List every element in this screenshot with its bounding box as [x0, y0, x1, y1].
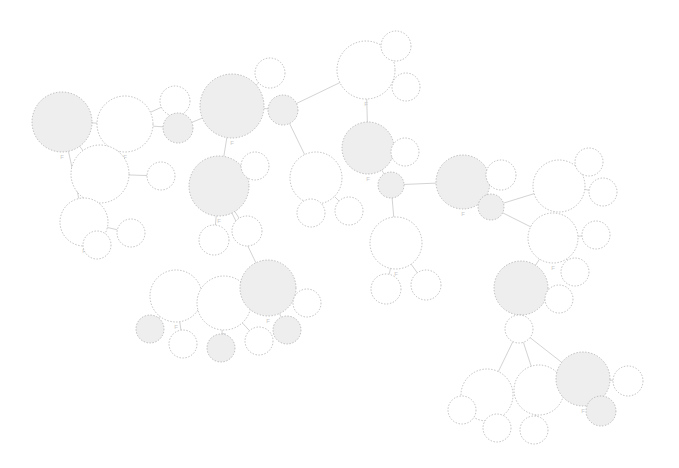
graph-node[interactable] — [160, 86, 190, 116]
graph-node[interactable] — [381, 31, 411, 61]
graph-edge — [153, 126, 163, 127]
node-circle[interactable] — [392, 73, 420, 101]
graph-canvas[interactable]: FFFFFFFFFFFFFFFFFFFF — [0, 0, 679, 468]
graph-node[interactable] — [241, 152, 269, 180]
graph-edge — [334, 196, 339, 201]
graph-node[interactable] — [83, 231, 111, 259]
node-circle[interactable] — [381, 31, 411, 61]
graph-node[interactable] — [163, 113, 193, 143]
node-circle[interactable] — [520, 416, 548, 444]
node-circle[interactable] — [582, 221, 610, 249]
graph-node[interactable] — [575, 148, 603, 176]
node-circle[interactable] — [297, 199, 325, 227]
node-circle[interactable] — [169, 330, 197, 358]
graph-node[interactable] — [582, 221, 610, 249]
graph-node[interactable] — [335, 197, 363, 225]
node-circle[interactable] — [83, 231, 111, 259]
graph-node[interactable]: F — [200, 74, 264, 146]
node-circle[interactable] — [411, 270, 441, 300]
graph-edge — [297, 83, 340, 104]
node-circle[interactable] — [293, 289, 321, 317]
graph-node[interactable]: F — [189, 156, 249, 224]
graph-node[interactable] — [505, 315, 533, 343]
graph-node[interactable] — [613, 366, 643, 396]
graph-node[interactable]: F — [32, 92, 92, 160]
graph-node[interactable] — [483, 414, 511, 442]
graph-node[interactable] — [448, 396, 476, 424]
node-circle[interactable] — [150, 270, 202, 322]
graph-node[interactable] — [561, 258, 589, 286]
graph-node[interactable] — [268, 95, 298, 125]
node-circle[interactable] — [486, 160, 516, 190]
node-circle[interactable] — [370, 217, 422, 269]
graph-node[interactable] — [169, 330, 197, 358]
graph-node[interactable] — [147, 162, 175, 190]
graph-edge — [150, 107, 161, 112]
graph-node[interactable]: F — [514, 365, 564, 423]
graph-node[interactable] — [371, 274, 401, 304]
graph-node[interactable] — [586, 396, 616, 426]
node-link-graph[interactable]: FFFFFFFFFFFFFFFFFFFF — [0, 0, 679, 468]
graph-node[interactable] — [117, 219, 145, 247]
graph-node[interactable] — [199, 225, 229, 255]
node-circle[interactable] — [586, 396, 616, 426]
graph-node[interactable] — [273, 316, 301, 344]
node-layer[interactable]: FFFFFFFFFFFFFFFFFFFF — [32, 31, 643, 444]
graph-node[interactable] — [520, 416, 548, 444]
graph-node[interactable] — [411, 270, 441, 300]
node-circle[interactable] — [207, 334, 235, 362]
node-circle[interactable] — [199, 225, 229, 255]
node-circle[interactable] — [32, 92, 92, 152]
node-circle[interactable] — [71, 145, 129, 203]
graph-node[interactable] — [297, 199, 325, 227]
node-circle[interactable] — [268, 95, 298, 125]
graph-node[interactable] — [245, 327, 273, 355]
node-circle[interactable] — [545, 285, 573, 313]
node-circle[interactable] — [136, 315, 164, 343]
graph-node[interactable] — [589, 178, 617, 206]
node-circle[interactable] — [378, 172, 404, 198]
graph-node[interactable] — [255, 58, 285, 88]
node-circle[interactable] — [117, 219, 145, 247]
node-circle[interactable] — [189, 156, 249, 216]
graph-node[interactable] — [392, 73, 420, 101]
graph-node[interactable] — [136, 315, 164, 343]
node-circle[interactable] — [505, 315, 533, 343]
node-circle[interactable] — [478, 194, 504, 220]
node-label: F — [551, 265, 555, 271]
node-circle[interactable] — [241, 152, 269, 180]
node-circle[interactable] — [613, 366, 643, 396]
graph-node[interactable] — [232, 216, 262, 246]
node-circle[interactable] — [163, 113, 193, 143]
node-circle[interactable] — [391, 138, 419, 166]
node-circle[interactable] — [342, 122, 394, 174]
graph-node[interactable] — [293, 289, 321, 317]
node-label: F — [266, 318, 270, 324]
node-circle[interactable] — [232, 216, 262, 246]
graph-node[interactable]: F — [494, 261, 548, 323]
node-circle[interactable] — [200, 74, 264, 138]
node-circle[interactable] — [528, 213, 578, 263]
node-circle[interactable] — [448, 396, 476, 424]
node-circle[interactable] — [335, 197, 363, 225]
node-circle[interactable] — [290, 152, 342, 204]
graph-node[interactable] — [378, 172, 404, 198]
node-circle[interactable] — [371, 274, 401, 304]
node-circle[interactable] — [240, 260, 296, 316]
node-circle[interactable] — [160, 86, 190, 116]
node-circle[interactable] — [589, 178, 617, 206]
node-circle[interactable] — [245, 327, 273, 355]
node-circle[interactable] — [273, 316, 301, 344]
graph-node[interactable] — [207, 334, 235, 362]
node-circle[interactable] — [147, 162, 175, 190]
node-circle[interactable] — [561, 258, 589, 286]
graph-node[interactable] — [545, 285, 573, 313]
graph-node[interactable] — [486, 160, 516, 190]
node-circle[interactable] — [97, 96, 153, 152]
node-circle[interactable] — [255, 58, 285, 88]
node-circle[interactable] — [483, 414, 511, 442]
graph-node[interactable] — [391, 138, 419, 166]
node-circle[interactable] — [494, 261, 548, 315]
graph-node[interactable] — [478, 194, 504, 220]
node-circle[interactable] — [575, 148, 603, 176]
